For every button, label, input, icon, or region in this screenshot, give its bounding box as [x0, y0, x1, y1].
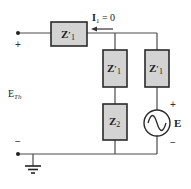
circuit-diagram: + − ETh I1 = 0 Z′1 Z′1 Z′1 Z2 [0, 0, 191, 189]
source-plus: + [170, 99, 176, 110]
ground-icon [25, 166, 41, 173]
terminal-top-dot [16, 31, 20, 35]
impedance-z1-right-branch: Z′1 [145, 50, 169, 87]
impedance-z1-series: Z′1 [51, 22, 87, 46]
source-label: E [174, 117, 181, 129]
terminal-bottom-polarity: − [15, 136, 21, 147]
impedance-z1-left-branch: Z′1 [103, 50, 127, 87]
eth-sub: Th [14, 93, 22, 101]
impedance-z2: Z2 [103, 104, 127, 140]
current-arrow-icon [91, 27, 113, 32]
ac-source-icon [144, 110, 170, 136]
current-label: I1 = 0 [92, 12, 115, 25]
source-minus: − [170, 137, 176, 148]
terminal-bottom-dot [16, 152, 20, 156]
terminal-top-polarity: + [15, 39, 21, 50]
wires [18, 33, 157, 166]
eth-label: ETh [8, 88, 22, 101]
